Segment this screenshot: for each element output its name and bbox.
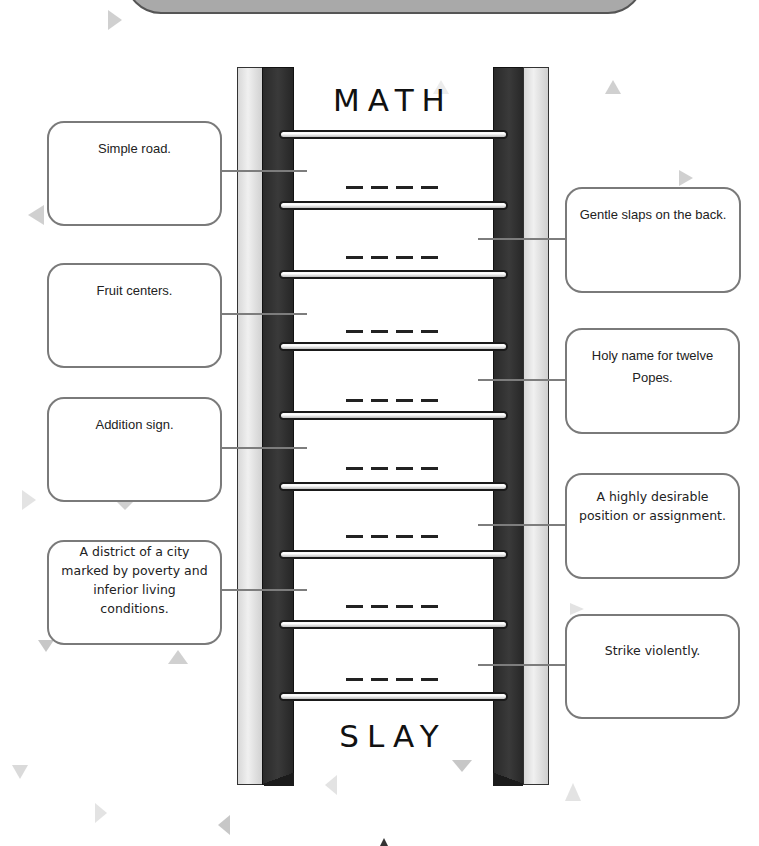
confetti-triangle-icon	[452, 760, 472, 772]
confetti-triangle-icon	[28, 205, 44, 225]
clue-text: Gentle slaps on the back.	[580, 207, 727, 222]
ladder-rung	[279, 550, 508, 559]
connector-line	[220, 589, 307, 591]
confetti-triangle-icon	[12, 765, 28, 779]
ladder-rung	[279, 130, 508, 139]
page-marker-icon	[380, 838, 388, 846]
confetti-triangle-icon	[95, 803, 107, 823]
ladder-rung	[279, 342, 508, 351]
ladder-left-rail-outer	[237, 67, 264, 785]
clue-box-left-3: Addition sign.	[47, 397, 222, 502]
confetti-triangle-icon	[565, 783, 581, 801]
header-banner	[125, 0, 644, 14]
connector-line	[478, 379, 566, 381]
confetti-triangle-icon	[605, 80, 621, 94]
answer-blank-7[interactable]	[346, 605, 438, 608]
ladder-rung	[279, 270, 508, 279]
answer-blank-1[interactable]	[346, 186, 438, 189]
clue-box-left-1: Simple road.	[47, 121, 222, 226]
ladder-rung	[279, 482, 508, 491]
rail-bevel-left	[264, 770, 294, 786]
confetti-triangle-icon	[679, 170, 693, 186]
clue-text: A highly desirable position or assignmen…	[579, 489, 726, 523]
confetti-triangle-icon	[108, 10, 122, 30]
connector-line	[478, 524, 566, 526]
clue-text: Strike violently.	[605, 643, 700, 658]
ladder-left-rail-inner	[262, 67, 294, 785]
clue-box-left-4: A district of a city marked by poverty a…	[47, 540, 222, 645]
confetti-triangle-icon	[218, 815, 230, 835]
answer-blank-2[interactable]	[346, 256, 438, 259]
start-word: MATH	[293, 82, 493, 118]
clue-box-right-3: A highly desirable position or assignmen…	[565, 473, 740, 579]
answer-blank-8[interactable]	[346, 678, 438, 681]
answer-blank-4[interactable]	[346, 399, 438, 402]
clue-text: Holy name for twelve Popes.	[592, 348, 713, 385]
confetti-triangle-icon	[38, 640, 54, 652]
ladder-rung	[279, 692, 508, 701]
connector-line	[220, 313, 307, 315]
connector-line	[220, 170, 307, 172]
confetti-triangle-icon	[325, 775, 337, 795]
clue-text: A district of a city marked by poverty a…	[61, 544, 207, 616]
clue-text: Simple road.	[98, 141, 171, 156]
answer-blank-5[interactable]	[346, 467, 438, 470]
ladder-rung	[279, 411, 508, 420]
ladder-rung	[279, 201, 508, 210]
ladder-right-rail-outer	[523, 67, 549, 785]
ladder-rung	[279, 620, 508, 629]
answer-blank-6[interactable]	[346, 535, 438, 538]
clue-box-right-1: Gentle slaps on the back.	[565, 187, 741, 293]
confetti-triangle-icon	[168, 650, 188, 664]
ladder-right-rail-inner	[493, 67, 525, 785]
confetti-triangle-icon	[22, 490, 36, 510]
clue-box-right-2: Holy name for twelve Popes.	[565, 328, 740, 434]
clue-box-left-2: Fruit centers.	[47, 263, 222, 368]
clue-text: Fruit centers.	[97, 283, 173, 298]
clue-box-right-4: Strike violently.	[565, 614, 740, 719]
clue-text: Addition sign.	[95, 417, 173, 432]
connector-line	[478, 238, 566, 240]
end-word: SLAY	[293, 718, 493, 754]
connector-line	[220, 447, 307, 449]
connector-line	[478, 664, 566, 666]
answer-blank-3[interactable]	[346, 330, 438, 333]
rail-bevel-right	[493, 770, 523, 786]
